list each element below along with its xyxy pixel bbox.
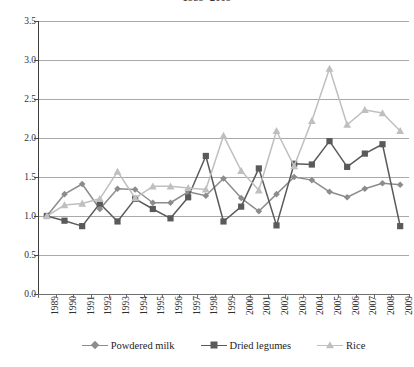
legend-marker-square-icon xyxy=(210,342,217,349)
x-tick-mark xyxy=(391,294,392,298)
y-tick-label: 2.5 xyxy=(2,94,36,104)
data-point-square xyxy=(61,218,67,224)
data-point-square xyxy=(150,206,156,212)
legend-marker-diamond-icon xyxy=(90,341,98,349)
legend-marker-triangle-icon xyxy=(326,341,334,348)
x-tick-mark xyxy=(215,294,216,298)
y-tick-label: 3.0 xyxy=(2,55,36,65)
x-tick-label: 2001 xyxy=(262,296,272,315)
x-tick-label: 1999 xyxy=(227,296,237,315)
x-tick-label: 2003 xyxy=(298,296,308,315)
x-axis-labels: 1989199019911992199319941995199619971998… xyxy=(38,296,409,336)
data-point-square xyxy=(397,223,403,229)
legend-label: Rice xyxy=(346,340,365,351)
legend-swatch-triangle-icon xyxy=(317,340,343,350)
line-chart: 1989–2009 3.53.02.52.01.51.00.50.0 19891… xyxy=(0,0,414,367)
y-tick-mark xyxy=(34,255,38,256)
x-tick-mark xyxy=(144,294,145,298)
x-tick-mark xyxy=(38,294,39,298)
y-tick-label: 0.5 xyxy=(2,250,36,260)
legend-swatch-square-icon xyxy=(201,340,227,350)
x-tick-label: 2006 xyxy=(351,296,361,315)
legend-label: Powdered milk xyxy=(111,340,175,351)
data-point-triangle xyxy=(114,168,122,175)
data-point-square xyxy=(379,141,385,147)
x-tick-mark xyxy=(91,294,92,298)
x-tick-mark xyxy=(56,294,57,298)
y-tick-mark xyxy=(34,99,38,100)
x-tick-mark xyxy=(126,294,127,298)
x-tick-label: 2000 xyxy=(245,296,255,315)
data-point-square xyxy=(203,153,209,159)
x-tick-label: 1990 xyxy=(68,296,78,315)
data-point-square xyxy=(256,165,262,171)
legend-item-powdered-milk[interactable]: Powdered milk xyxy=(82,340,175,351)
x-tick-mark xyxy=(356,294,357,298)
x-tick-label: 1992 xyxy=(103,296,113,315)
data-point-square xyxy=(167,215,173,221)
y-tick-label: 0.0 xyxy=(2,289,36,299)
x-tick-label: 1998 xyxy=(209,296,219,315)
data-point-triangle xyxy=(308,117,316,124)
y-tick-label: 1.0 xyxy=(2,211,36,221)
data-point-square xyxy=(344,164,350,170)
chart-title: 1989–2009 xyxy=(0,0,414,3)
x-tick-label: 2004 xyxy=(315,296,325,315)
data-point-square xyxy=(238,204,244,210)
y-tick-mark xyxy=(34,216,38,217)
data-point-square xyxy=(309,161,315,167)
series-powdered-milk xyxy=(44,174,404,220)
y-tick-mark xyxy=(34,60,38,61)
x-tick-mark xyxy=(250,294,251,298)
x-tick-label: 2009 xyxy=(404,296,414,315)
legend-item-rice[interactable]: Rice xyxy=(317,340,365,351)
data-point-square xyxy=(326,138,332,144)
data-point-square xyxy=(114,218,120,224)
data-point-triangle xyxy=(237,167,245,174)
data-point-square xyxy=(185,194,191,200)
x-tick-mark xyxy=(197,294,198,298)
x-tick-mark xyxy=(268,294,269,298)
x-tick-label: 1993 xyxy=(121,296,131,315)
x-tick-mark xyxy=(162,294,163,298)
chart-legend: Powdered milkDried legumesRice xyxy=(38,336,409,354)
x-tick-mark xyxy=(321,294,322,298)
data-point-square xyxy=(220,218,226,224)
x-tick-mark xyxy=(73,294,74,298)
data-point-triangle xyxy=(326,65,334,72)
data-point-triangle xyxy=(273,127,281,134)
x-tick-label: 2007 xyxy=(368,296,378,315)
data-point-square xyxy=(273,222,279,228)
x-tick-label: 1991 xyxy=(86,296,96,315)
x-tick-label: 1989 xyxy=(50,296,60,315)
x-tick-mark xyxy=(232,294,233,298)
y-tick-mark xyxy=(34,138,38,139)
data-point-square xyxy=(362,151,368,157)
x-tick-label: 2002 xyxy=(280,296,290,315)
data-point-diamond xyxy=(379,180,386,187)
legend-item-dried-legumes[interactable]: Dried legumes xyxy=(201,340,292,351)
x-tick-mark xyxy=(303,294,304,298)
data-point-diamond xyxy=(344,194,351,201)
x-tick-mark xyxy=(109,294,110,298)
data-point-triangle xyxy=(361,106,369,113)
y-tick-label: 1.5 xyxy=(2,172,36,182)
series-line xyxy=(47,141,400,226)
x-axis-line xyxy=(38,294,409,295)
x-tick-mark xyxy=(374,294,375,298)
x-tick-label: 1997 xyxy=(192,296,202,315)
y-tick-mark xyxy=(34,21,38,22)
legend-label: Dried legumes xyxy=(230,340,292,351)
x-tick-label: 1994 xyxy=(139,296,149,315)
legend-swatch-diamond-icon xyxy=(82,340,108,350)
series-line xyxy=(47,69,400,216)
data-point-triangle xyxy=(220,132,228,139)
x-tick-mark xyxy=(179,294,180,298)
y-tick-label: 3.5 xyxy=(2,16,36,26)
x-tick-mark xyxy=(338,294,339,298)
x-tick-mark xyxy=(285,294,286,298)
x-tick-label: 1996 xyxy=(174,296,184,315)
x-tick-label: 2008 xyxy=(386,296,396,315)
x-tick-mark xyxy=(409,294,410,298)
x-tick-label: 1995 xyxy=(156,296,166,315)
